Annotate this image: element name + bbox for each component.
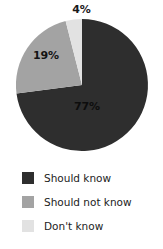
pie-chart-figure: 4% 19% 77% Should know Should not know D…	[0, 0, 163, 249]
legend-swatch-dont-know	[21, 219, 35, 233]
legend-item-should-not-know[interactable]: Should not know	[21, 190, 163, 214]
pie-chart-graphic	[0, 0, 163, 160]
legend-item-should-know[interactable]: Should know	[21, 166, 163, 190]
legend-item-dont-know[interactable]: Don't know	[21, 214, 163, 238]
legend-label-dont-know: Don't know	[44, 221, 103, 232]
legend-label-should-know: Should know	[44, 173, 111, 184]
legend-swatch-should-not-know	[21, 195, 35, 209]
chart-legend: Should know Should not know Don't know	[21, 166, 163, 238]
pie-label-should-not-know: 19%	[33, 50, 59, 61]
pie-label-should-know: 77%	[74, 101, 100, 112]
legend-swatch-should-know	[21, 171, 35, 185]
legend-label-should-not-know: Should not know	[44, 197, 132, 208]
pie-chart-plot-area: 4% 19% 77%	[0, 0, 163, 160]
pie-label-dont-know: 4%	[0, 4, 163, 15]
